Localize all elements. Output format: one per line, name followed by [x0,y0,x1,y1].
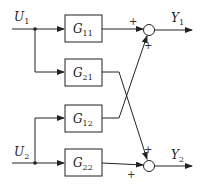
g22-to-sum2 [102,163,143,165]
sign-sum2-bottom: + [127,169,135,180]
summing-junction-2 [144,161,155,172]
g21-to-sum2 [102,72,147,159]
sign-sum1-bottom: + [144,40,152,51]
output-label-y2: Y2 [171,148,184,164]
output-label-y1: Y1 [171,11,184,27]
input-u1-path [12,27,64,72]
sign-sum1-top: + [129,16,137,27]
g12-to-sum1 [102,36,147,118]
input-label-u2: U2 [14,145,29,161]
block-diagram: U1 U2 G11 G21 G12 G22 Y1 Y2 + + + + [0,0,204,189]
summing-junction-1 [144,25,155,36]
input-label-u1: U1 [14,10,29,26]
sign-sum2-top: + [144,144,152,155]
